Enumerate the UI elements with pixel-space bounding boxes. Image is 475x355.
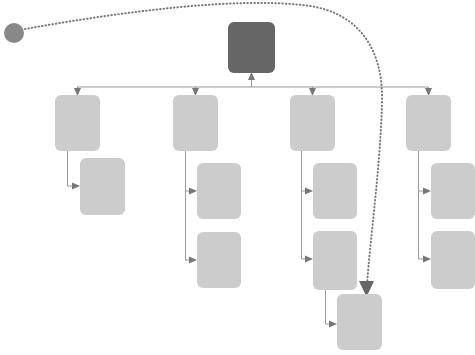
leaf-node-branch-3-child-1[interactable] (313, 163, 357, 219)
root-node[interactable] (228, 22, 275, 73)
sub-leaf-node-branch-3-grandchild-1[interactable] (337, 294, 382, 350)
arrowhead-down-branch-1 (74, 88, 81, 96)
diagram-svg (0, 0, 475, 355)
arrowhead-right-grandchild-1 (329, 321, 337, 328)
arrowhead-right-branch-2-child-1 (189, 188, 197, 195)
arrowhead-right-branch-1-child-1 (72, 183, 80, 190)
arrowhead-right-branch-3-child-2 (305, 256, 313, 263)
arrowhead-right-branch-4-child-1 (423, 188, 431, 195)
leaf-node-branch-4-child-1[interactable] (431, 163, 475, 219)
arrowhead-right-branch-2-child-2 (189, 257, 197, 264)
leaf-node-branch-4-child-2[interactable] (431, 231, 475, 289)
branch-node-3[interactable] (290, 95, 335, 151)
arrowhead-up-root (248, 72, 255, 80)
arrowhead-right-branch-3-child-1 (305, 188, 313, 195)
edge-branch-1-to-child-1 (68, 151, 75, 186)
arrowhead-down-branch-4 (425, 88, 432, 96)
arrowhead-down-branch-3 (309, 88, 316, 96)
branch-node-4[interactable] (406, 95, 451, 151)
leaf-node-branch-2-child-1[interactable] (197, 163, 241, 219)
edge-branch-3-child-2-to-grandchild-1 (326, 290, 332, 324)
arrowhead-down-branch-2 (192, 88, 199, 96)
leaf-node-branch-2-child-2[interactable] (197, 232, 241, 288)
diagram-canvas (0, 0, 475, 355)
leaf-node-branch-1-child-1[interactable] (80, 158, 125, 215)
source-marker-node[interactable] (4, 23, 24, 43)
branch-node-2[interactable] (173, 95, 218, 151)
leaf-node-branch-3-child-2[interactable] (313, 231, 357, 290)
arrowhead-right-branch-4-child-2 (423, 256, 431, 263)
branch-node-1[interactable] (55, 95, 100, 151)
